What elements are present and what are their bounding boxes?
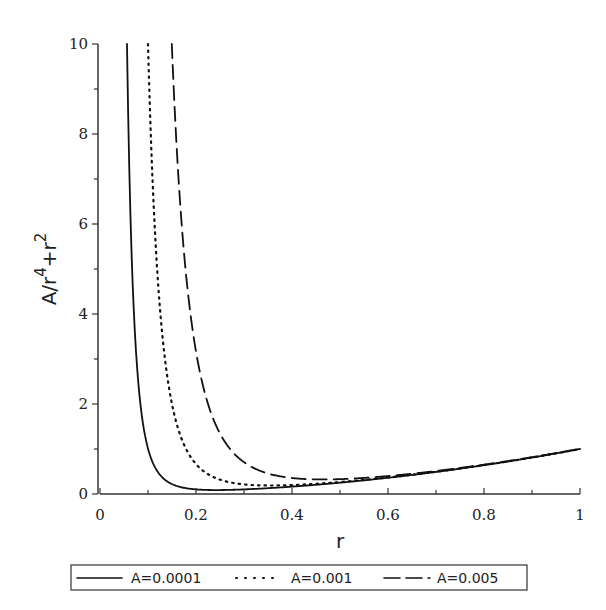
x-tick-label: 0 <box>95 506 105 524</box>
y-tick-label: 10 <box>69 35 88 53</box>
x-tick-label: 0.6 <box>376 506 400 524</box>
x-tick-label: 0.8 <box>472 506 496 524</box>
x-axis-label: r <box>336 529 345 553</box>
y-tick-label: 2 <box>78 395 88 413</box>
y-tick-label: 4 <box>78 305 88 323</box>
x-tick-label: 1 <box>575 506 585 524</box>
series-line-dashed <box>172 44 580 479</box>
chart: 00.20.40.60.810246810 r A/r4+r2 A=0.0001… <box>0 0 606 610</box>
y-tick-label: 6 <box>78 215 88 233</box>
y-tick-label: 0 <box>78 485 88 503</box>
legend-label: A=0.0001 <box>131 570 201 586</box>
y-axis-label: A/r4+r2 <box>32 233 61 306</box>
series-line-solid <box>127 44 580 490</box>
x-tick-label: 0.4 <box>280 506 304 524</box>
plot-area <box>127 44 580 490</box>
legend-label: A=0.001 <box>291 570 352 586</box>
axes: 00.20.40.60.810246810 <box>69 35 585 524</box>
y-tick-label: 8 <box>78 125 88 143</box>
x-tick-label: 0.2 <box>184 506 208 524</box>
legend: A=0.0001A=0.001A=0.005 <box>71 565 527 590</box>
legend-label: A=0.005 <box>437 570 498 586</box>
